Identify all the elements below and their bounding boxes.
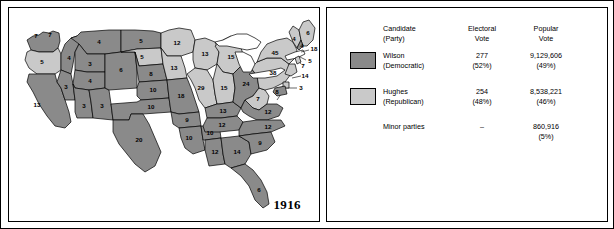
- swatch-republican: [350, 88, 376, 105]
- ev-label-NM: 3: [100, 103, 103, 109]
- ev-label-MA: 18: [311, 46, 318, 52]
- state-FL: [231, 164, 269, 208]
- ev-label-NY: 45: [272, 50, 279, 56]
- ev-label-NJ: 14: [302, 73, 309, 79]
- ev-label-AL: 12: [212, 149, 219, 155]
- ev-label-TN: 12: [219, 122, 226, 128]
- ev-label-NH: 4: [300, 43, 303, 49]
- ev-label-TX: 20: [136, 137, 143, 143]
- ev-label-MN: 12: [174, 40, 181, 46]
- header-candidate: Candidate: [383, 24, 416, 34]
- header-popular: Popular: [534, 24, 559, 34]
- ev-label-WA: 7: [48, 32, 51, 38]
- ev-label-NV: 3: [64, 84, 67, 90]
- ev-label-OR: 5: [40, 59, 43, 65]
- ev-label-MI: 15: [228, 54, 235, 60]
- row-wilson-electoral-pct: (52%): [472, 61, 491, 71]
- ev-label-IA: 13: [171, 65, 178, 71]
- ev-label-UT: 4: [88, 78, 91, 84]
- row-minor-popular: 860,916: [533, 122, 559, 132]
- header-popular-sub: Vote: [539, 34, 553, 44]
- ev-label-ID: 4: [67, 55, 70, 61]
- ev-label-CT: 7: [301, 63, 304, 69]
- ev-label-AZ: 3: [82, 103, 85, 109]
- state-WA: [27, 31, 60, 52]
- ev-label-AR: 9: [185, 117, 188, 123]
- leader-NJ: [292, 76, 301, 78]
- ev-label-RI: 5: [308, 58, 311, 64]
- ev-label-CA: 13: [34, 102, 41, 108]
- leader-RI: [300, 57, 306, 60]
- ev-label-MD: 8: [275, 89, 278, 95]
- map-panel: 7 7 5 13 4 3 4 3 4 3 3 6 5 5 8 10 10 20 …: [8, 7, 320, 222]
- ev-label-KY: 13: [220, 108, 227, 114]
- row-minor-electoral: –: [480, 122, 484, 131]
- row-wilson-name: Wilson: [383, 51, 405, 61]
- row-hughes-name: Hughes: [383, 87, 408, 97]
- ev-label-OK: 10: [148, 104, 155, 110]
- ev-label-VA: 12: [265, 109, 272, 115]
- header-electoral: Electoral: [468, 24, 496, 34]
- row-hughes-popular: 8,538,221: [530, 87, 562, 97]
- row-wilson-party: (Democratic): [383, 61, 424, 71]
- legend-panel: Candidate (Party) Electoral Vote Popular…: [326, 7, 608, 222]
- ev-label-NE: 8: [149, 71, 152, 77]
- ev-label-OH: 24: [243, 81, 250, 87]
- ev-label-SC: 9: [258, 140, 261, 146]
- row-minor-name: Minor parties: [383, 122, 425, 132]
- ev-label-GA: 14: [234, 149, 241, 155]
- ev-label-IN: 15: [221, 85, 228, 91]
- ev-label-WA-alt: 7: [34, 33, 37, 39]
- ev-label-NC: 12: [265, 124, 272, 130]
- ev-label-WV: 7: [256, 96, 259, 102]
- header-candidate-sub: (Party): [383, 34, 405, 44]
- ev-label-FL: 6: [257, 187, 260, 193]
- row-wilson-popular: 9,129,606: [530, 51, 562, 61]
- ev-label-MO: 18: [178, 93, 185, 99]
- us-map: [9, 8, 320, 222]
- legend-table: Candidate (Party) Electoral Vote Popular…: [327, 8, 608, 222]
- election-map-figure: 7 7 5 13 4 3 4 3 4 3 3 6 5 5 8 10 10 20 …: [0, 0, 614, 229]
- row-wilson-electoral: 277: [476, 51, 488, 61]
- row-hughes-popular-pct: (46%): [536, 97, 555, 107]
- row-hughes-electoral-pct: (48%): [472, 97, 491, 107]
- ev-label-PA: 38: [270, 70, 277, 76]
- ev-label-ND: 5: [139, 38, 142, 44]
- ev-label-LA: 10: [186, 135, 193, 141]
- ev-label-WY: 3: [88, 61, 91, 67]
- ev-label-MT: 4: [97, 39, 100, 45]
- header-electoral-sub: Vote: [475, 34, 489, 44]
- row-minor-popular-pct: (5%): [538, 132, 553, 142]
- row-hughes-party: (Republican): [383, 97, 424, 107]
- ev-label-KS: 10: [150, 87, 157, 93]
- ev-label-DE: 3: [299, 85, 302, 91]
- row-wilson-popular-pct: (49%): [536, 61, 555, 71]
- ev-label-ME: 6: [306, 30, 309, 36]
- ev-label-SD: 5: [140, 54, 143, 60]
- swatch-democratic: [350, 52, 376, 69]
- ev-label-CO: 6: [119, 67, 122, 73]
- ev-label-VT: 4: [292, 36, 295, 42]
- ev-label-IL: 29: [198, 85, 205, 91]
- row-hughes-electoral: 254: [476, 87, 488, 97]
- ev-label-WI: 13: [202, 51, 209, 57]
- year-label: 1916: [273, 197, 301, 213]
- ev-label-MS: 10: [207, 130, 214, 136]
